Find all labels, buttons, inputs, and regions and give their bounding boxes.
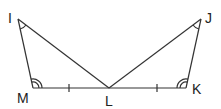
- angle-arc-I: [20, 25, 26, 29]
- point-label-L: L: [105, 94, 113, 108]
- point-label-J: J: [205, 11, 212, 25]
- point-label-K: K: [192, 82, 201, 96]
- angle-arc-J: [193, 25, 199, 29]
- point-label-I: I: [8, 11, 12, 25]
- geometry-diagram: I M L J K: [0, 0, 221, 109]
- segment-LJ: [109, 19, 201, 88]
- point-label-M: M: [17, 91, 29, 105]
- segment-IL: [18, 19, 109, 88]
